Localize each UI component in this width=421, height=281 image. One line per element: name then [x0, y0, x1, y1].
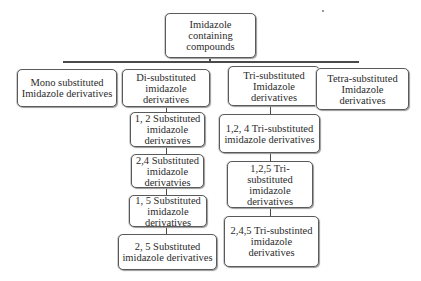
node-2-4-5-tri-substituted: 2,4,5 Tri-substinted imidazole derivativ…: [224, 216, 319, 267]
node-label: 2,4 Substituted imidazole derivatvies: [135, 155, 200, 188]
node-1-2-substituted: 1, 2 Substituted imidazole derivatives: [130, 112, 205, 147]
node-1-2-5-tri-substituted: 1,2,5 Tri-substituted imidazole derivati…: [227, 161, 313, 208]
node-label: Di-substituted imidazole derivatives: [126, 72, 206, 105]
node-label: 1, 2 Substituted imidazole derivatives: [134, 113, 201, 146]
node-label: 1, 5 Substituted imidazole derivatives: [133, 195, 203, 228]
node-1-5-substituted: 1, 5 Substituted imidazole derivatives: [129, 195, 207, 227]
node-label: 2, 5 Substituted imidazole derivatives: [122, 241, 213, 263]
node-label: Tetra-substituted Imidazole derivatives: [320, 73, 405, 106]
node-mono-substituted: Mono substituted Imidazole derivatives: [17, 69, 117, 107]
node-1-2-4-tri-substituted: 1,2, 4 Tri-substituted imidazole derivat…: [219, 114, 320, 153]
stray-dot: [322, 10, 324, 12]
node-di-substituted: Di-substituted imidazole derivatives: [122, 69, 210, 107]
root-label: Imidazole containing compounds: [169, 19, 252, 52]
node-tetra-substituted: Tetra-substituted Imidazole derivatives: [316, 68, 409, 110]
node-2-4-substituted: 2,4 Substituted imidazole derivatvies: [131, 154, 204, 188]
node-tri-substituted: Tri-substituted Imidazole derivatives: [228, 66, 320, 106]
node-label: 2,4,5 Tri-substinted imidazole derivativ…: [228, 225, 315, 258]
node-label: 1,2,5 Tri-substituted imidazole derivati…: [231, 163, 309, 207]
node-label: 1,2, 4 Tri-substituted imidazole derivat…: [223, 123, 316, 145]
root-node: Imidazole containing compounds: [165, 13, 256, 58]
level1-bus-line: [63, 61, 359, 63]
node-label: Tri-substituted Imidazole derivatives: [232, 70, 316, 103]
node-2-5-substituted: 2, 5 Substituted imidazole derivatives: [118, 234, 217, 270]
node-label: Mono substituted Imidazole derivatives: [21, 77, 113, 99]
